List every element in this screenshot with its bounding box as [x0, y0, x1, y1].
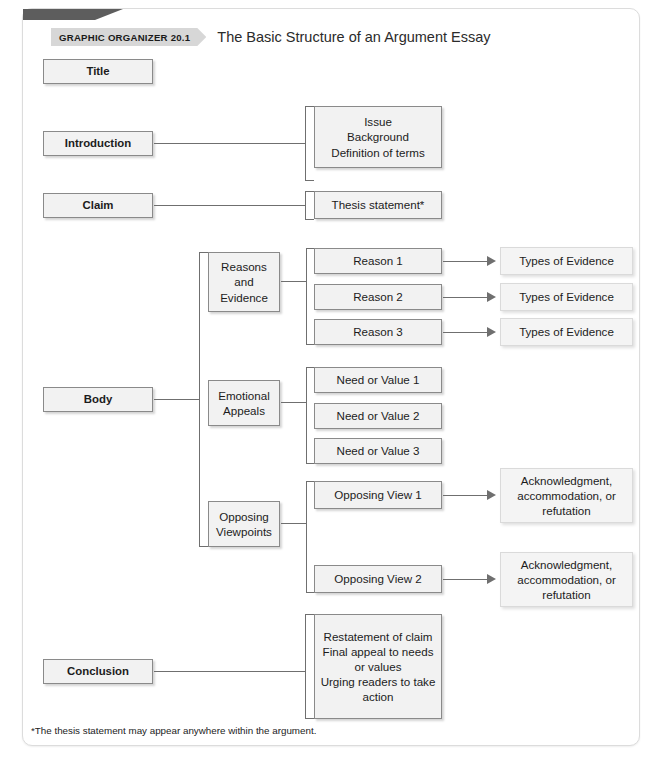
detail-box-reason-1[interactable]: Reason 1: [314, 248, 442, 274]
body-part-emotional-appeals[interactable]: Emotional Appeals: [208, 380, 280, 426]
stage-box-body[interactable]: Body: [43, 387, 153, 412]
graphic-organizer-badge: GRAPHIC ORGANIZER 20.1: [51, 28, 206, 46]
stage-box-title[interactable]: Title: [43, 59, 153, 84]
connector-emotional-appeals: [281, 402, 306, 403]
detail-box-claim[interactable]: Thesis statement*: [314, 191, 442, 219]
footnote: *The thesis statement may appear anywher…: [31, 725, 316, 736]
connector-opposing-viewpoints: [281, 523, 306, 524]
header: GRAPHIC ORGANIZER 20.1 The Basic Structu…: [51, 28, 491, 46]
body-part-reasons-and-evidence[interactable]: Reasons and Evidence: [208, 252, 280, 312]
detail-box-opposing-view-1[interactable]: Opposing View 1: [314, 481, 442, 509]
connector-claim: [154, 205, 305, 206]
body-part-opposing-viewpoints[interactable]: Opposing Viewpoints: [208, 501, 280, 547]
connector-conclusion: [154, 671, 305, 672]
detail-box-reason-2[interactable]: Reason 2: [314, 284, 442, 310]
bracket-introduction: [305, 106, 314, 181]
evidence-box-types-1[interactable]: Types of Evidence: [500, 247, 633, 275]
connector-response-1: [443, 495, 488, 496]
corner-tab-decoration: [23, 9, 123, 20]
arrow-icon-response-1: [487, 490, 496, 500]
connector-evidence-3: [443, 332, 488, 333]
connector-response-2: [443, 579, 488, 580]
connector-body: [154, 399, 199, 400]
connector-evidence-2: [443, 297, 488, 298]
connector-introduction: [154, 143, 305, 144]
detail-box-reason-3[interactable]: Reason 3: [314, 319, 442, 345]
evidence-box-types-2[interactable]: Types of Evidence: [500, 283, 633, 311]
bracket-body: [199, 252, 208, 547]
detail-box-need-or-value-1[interactable]: Need or Value 1: [314, 367, 442, 393]
bracket-conclusion: [305, 614, 314, 719]
detail-box-need-or-value-3[interactable]: Need or Value 3: [314, 438, 442, 464]
arrow-icon-evidence-2: [487, 292, 496, 302]
detail-box-introduction[interactable]: Issue Background Definition of terms: [314, 106, 442, 168]
response-box-2[interactable]: Acknowledgment, accommodation, or refuta…: [500, 552, 633, 607]
arrow-icon-evidence-3: [487, 327, 496, 337]
bracket-claim: [305, 191, 314, 220]
detail-box-conclusion[interactable]: Restatement of claim Final appeal to nee…: [314, 614, 442, 719]
stage-box-claim[interactable]: Claim: [43, 193, 153, 218]
page-title: The Basic Structure of an Argument Essay: [217, 29, 490, 45]
connector-reasons-and-evidence: [281, 281, 306, 282]
detail-box-opposing-view-2[interactable]: Opposing View 2: [314, 565, 442, 593]
badge-label: GRAPHIC ORGANIZER 20.1: [59, 32, 190, 43]
arrow-icon-response-2: [487, 574, 496, 584]
connector-evidence-1: [443, 261, 488, 262]
arrow-icon-evidence-1: [487, 256, 496, 266]
stage-box-conclusion[interactable]: Conclusion: [43, 659, 153, 684]
stage-box-introduction[interactable]: Introduction: [43, 131, 153, 156]
evidence-box-types-3[interactable]: Types of Evidence: [500, 318, 633, 346]
graphic-organizer-card: GRAPHIC ORGANIZER 20.1 The Basic Structu…: [22, 8, 640, 746]
response-box-1[interactable]: Acknowledgment, accommodation, or refuta…: [500, 468, 633, 523]
detail-box-need-or-value-2[interactable]: Need or Value 2: [314, 403, 442, 429]
